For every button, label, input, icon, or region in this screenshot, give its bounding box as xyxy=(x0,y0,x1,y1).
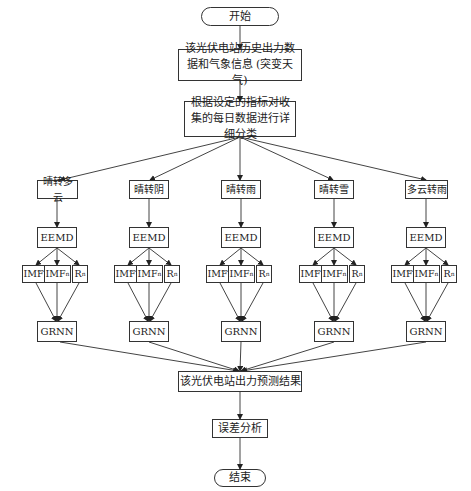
ellipsis: ··· xyxy=(406,267,414,276)
eemd-box: EEMD xyxy=(314,227,354,248)
imf-n-box: IMFn xyxy=(44,265,71,283)
prediction-result-box: 该光伏电站出力预测结果 xyxy=(178,371,302,392)
imf-n-box: IMFn xyxy=(413,265,440,283)
residual-box: Rn xyxy=(349,265,365,283)
eemd-box: EEMD xyxy=(37,227,77,248)
residual-box: Rn xyxy=(441,265,457,283)
residual-box: Rn xyxy=(164,265,180,283)
classify-box: 根据设定的指标对收集的每日数据进行详细分类 xyxy=(184,101,296,137)
ellipsis: ··· xyxy=(129,267,137,276)
imf-n-box: IMFn xyxy=(228,265,255,283)
grnn-box: GRNN xyxy=(314,321,354,342)
imf-n-box: IMFn xyxy=(136,265,163,283)
grnn-box: GRNN xyxy=(129,321,169,342)
branch-label-sunny-to-snow: 晴转雪 xyxy=(314,180,354,199)
branch-label-sunny-to-overcast: 晴转阴 xyxy=(129,180,169,199)
residual-box: Rn xyxy=(256,265,272,283)
ellipsis: ··· xyxy=(314,267,322,276)
grnn-box: GRNN xyxy=(37,321,77,342)
eemd-box: EEMD xyxy=(129,227,169,248)
imf-n-box: IMFn xyxy=(321,265,348,283)
branch-label-cloudy-to-rain: 多云转雨 xyxy=(405,180,448,199)
residual-box: Rn xyxy=(72,265,88,283)
start-terminal: 开始 xyxy=(201,7,279,26)
branch-label-sunny-to-cloudy: 晴转多云 xyxy=(37,180,78,199)
input-data-box: 该光伏电站历史出力数据和气象信息 (突变天气) xyxy=(178,49,302,81)
branch-label-sunny-to-rain: 晴转雨 xyxy=(221,180,261,199)
end-terminal: 结束 xyxy=(214,469,266,487)
eemd-box: EEMD xyxy=(406,227,446,248)
grnn-box: GRNN xyxy=(406,321,446,342)
eemd-box: EEMD xyxy=(221,227,261,248)
grnn-box: GRNN xyxy=(221,321,261,342)
ellipsis: ··· xyxy=(221,267,229,276)
ellipsis: ··· xyxy=(37,267,45,276)
error-analysis-box: 误差分析 xyxy=(212,419,268,438)
